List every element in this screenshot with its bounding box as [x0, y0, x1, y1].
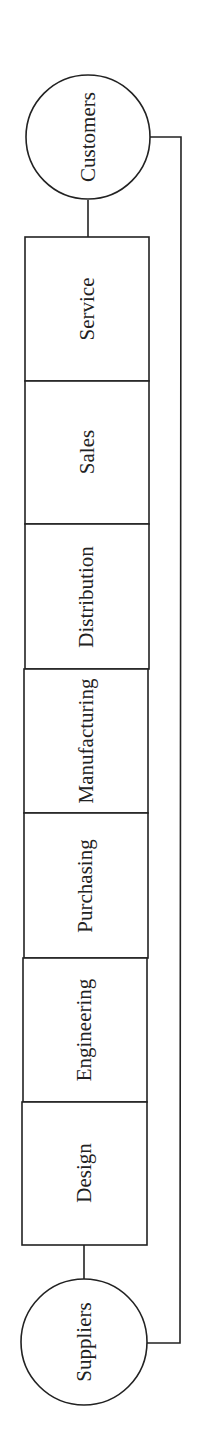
stage-label: Design — [72, 1143, 96, 1203]
customers-label: Customers — [76, 92, 100, 182]
stages-group: Service Sales Distribution Manufacturing… — [22, 237, 149, 1245]
customers-node: Customers — [26, 75, 150, 199]
value-chain-diagram: Customers Service Sales Distribution Man… — [0, 0, 202, 1441]
stage-label: Engineering — [72, 978, 96, 1081]
feedback-connector — [147, 137, 181, 1343]
stage-label: Purchasing — [73, 839, 97, 933]
stage-label: Service — [75, 278, 99, 341]
stage-label: Manufacturing — [74, 678, 98, 803]
stage-label: Distribution — [74, 546, 98, 648]
suppliers-label: Suppliers — [72, 1302, 96, 1381]
stage-label: Sales — [75, 430, 99, 474]
suppliers-node: Suppliers — [21, 1279, 147, 1405]
